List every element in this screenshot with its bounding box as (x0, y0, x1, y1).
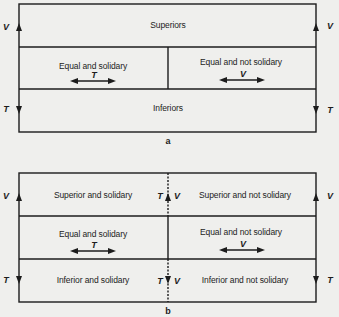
arrow-label-t-b: T (91, 240, 97, 250)
center-arrow-up-icon (165, 193, 171, 201)
arrowhead-right-icon (108, 248, 116, 254)
arrow-label-t: T (91, 70, 97, 80)
arrow-up-icon (16, 193, 22, 201)
label-equal-solidary-b: Equal and solidary (59, 229, 127, 239)
caption-a: a (165, 136, 170, 146)
center-arrow-down-icon (165, 276, 171, 284)
left-axis-up-label: V (3, 22, 9, 32)
label-inferior-not-solidary: Inferior and not solidary (202, 275, 288, 285)
arrowhead-right-icon (257, 77, 265, 83)
left-axis-down-label: T (3, 104, 9, 114)
diagram-lines (0, 0, 339, 317)
label-equal-not-solidary: Equal and not solidary (200, 57, 282, 67)
arrowhead-right-icon (108, 78, 116, 84)
arrow-down-icon (313, 106, 319, 114)
arrow-label-v-b: V (240, 239, 246, 249)
arrow-label-v: V (240, 69, 246, 79)
right-axis-up-label-b: V (327, 191, 333, 201)
right-axis-down-label-b: T (327, 275, 333, 285)
arrow-up-icon (16, 23, 22, 31)
right-axis-up-label: V (327, 21, 333, 31)
right-axis-down-label: T (327, 105, 333, 115)
left-axis-down-label-b: T (3, 275, 9, 285)
arrow-down-icon (313, 276, 319, 284)
arrowhead-left-icon (219, 77, 227, 83)
center-down-left-label: T (157, 276, 163, 286)
center-up-right-label: V (174, 191, 180, 201)
arrow-up-icon (313, 23, 319, 31)
label-equal-not-solidary-b: Equal and not solidary (200, 227, 282, 237)
label-inferiors: Inferiors (153, 103, 183, 113)
arrowhead-left-icon (70, 78, 78, 84)
label-superior-solidary: Superior and solidary (54, 190, 132, 200)
label-inferior-solidary: Inferior and solidary (57, 275, 130, 285)
arrow-down-icon (16, 106, 22, 114)
arrowhead-right-icon (257, 247, 265, 253)
label-superiors: Superiors (150, 20, 185, 30)
arrowhead-left-icon (70, 248, 78, 254)
center-up-left-label: T (157, 191, 163, 201)
left-axis-up-label-b: V (3, 191, 9, 201)
arrow-down-icon (16, 276, 22, 284)
label-superior-not-solidary: Superior and not solidary (199, 190, 291, 200)
arrow-up-icon (313, 193, 319, 201)
caption-b: b (165, 306, 171, 316)
center-down-right-label: V (174, 276, 180, 286)
arrowhead-left-icon (219, 247, 227, 253)
